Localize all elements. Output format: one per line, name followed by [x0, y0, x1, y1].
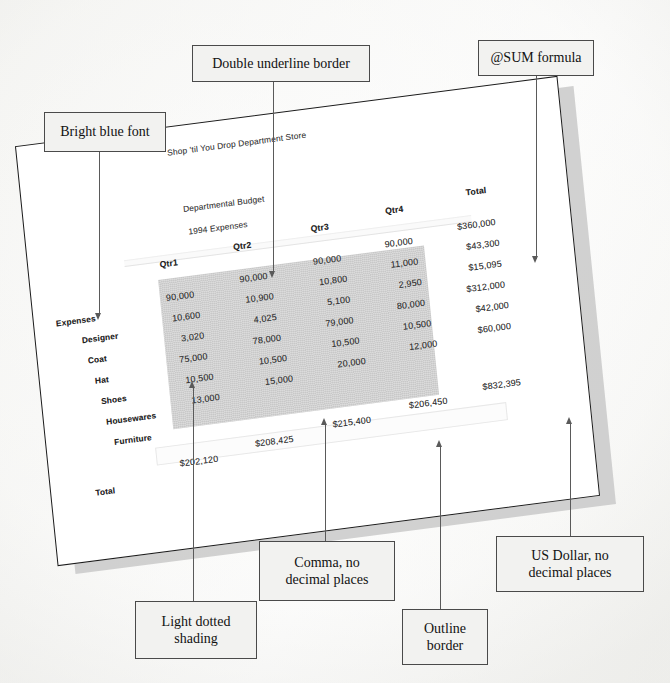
callout-us-dollar-line2: decimal places	[529, 564, 612, 581]
callout-bright-blue-font: Bright blue font	[44, 112, 166, 152]
callout-outline-border-line2: border	[427, 637, 464, 654]
callout-sum-formula: @SUM formula	[478, 40, 594, 76]
arrowhead-light-dotted-shading	[189, 381, 195, 388]
arrowhead-sum-formula	[532, 256, 538, 263]
arrowhead-us-dollar	[566, 417, 572, 424]
callout-double-underline: Double underline border	[192, 45, 370, 82]
callout-sum-formula-label: @SUM formula	[490, 49, 581, 66]
arrowhead-double-underline	[269, 271, 275, 278]
callout-double-underline-label: Double underline border	[212, 55, 350, 72]
arrowhead-outline-border	[436, 440, 442, 447]
callout-light-dotted-shading-line1: Light dotted	[162, 613, 231, 630]
arrowhead-comma-no-decimals	[321, 418, 327, 425]
callout-light-dotted-shading: Light dotted shading	[135, 601, 257, 659]
callout-comma-no-decimals-line2: decimal places	[286, 571, 369, 588]
callout-us-dollar-line1: US Dollar, no	[531, 547, 609, 564]
callout-comma-no-decimals-line1: Comma, no	[294, 554, 359, 571]
leader-line-outline-border	[440, 447, 441, 609]
callout-comma-no-decimals: Comma, no decimal places	[259, 541, 395, 601]
arrowhead-bright-blue-font	[95, 313, 101, 320]
callout-outline-border-line1: Outline	[424, 620, 466, 637]
screenshot-root: Shop 'til You Drop Department Store Depa…	[0, 0, 670, 683]
callout-us-dollar: US Dollar, no decimal places	[496, 536, 644, 592]
leader-line-comma-no-decimals	[325, 425, 326, 541]
leader-line-bright-blue-font	[99, 152, 100, 316]
leader-line-double-underline	[273, 82, 274, 274]
callout-outline-border: Outline border	[402, 609, 488, 665]
leader-line-light-dotted-shading	[193, 388, 194, 601]
leader-line-sum-formula	[536, 76, 537, 259]
callout-bright-blue-font-label: Bright blue font	[60, 123, 149, 140]
callout-light-dotted-shading-line2: shading	[174, 630, 218, 647]
leader-line-us-dollar	[570, 424, 571, 536]
